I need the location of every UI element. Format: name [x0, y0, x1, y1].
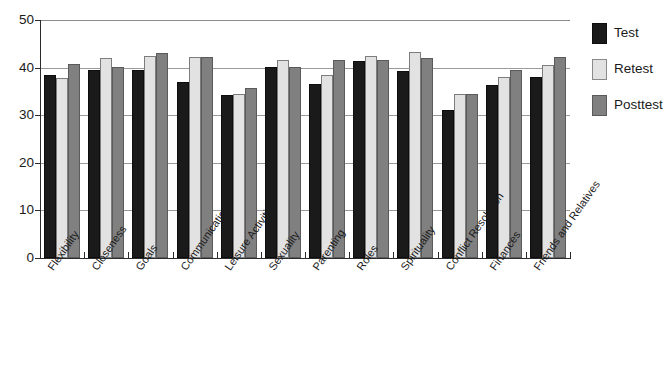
bar-retest[interactable]	[56, 78, 68, 258]
bar-test[interactable]	[397, 71, 409, 258]
bar-retest[interactable]	[365, 56, 377, 258]
y-tick-label: 30	[2, 108, 34, 122]
bar-test[interactable]	[177, 82, 189, 258]
bar-group	[265, 20, 301, 258]
bar-retest[interactable]	[189, 57, 201, 258]
bar-retest[interactable]	[454, 94, 466, 258]
bar-posttest[interactable]	[156, 53, 168, 258]
bar-retest[interactable]	[277, 60, 289, 258]
legend-label-test: Test	[614, 26, 639, 40]
legend-swatch-test-icon	[592, 23, 607, 44]
x-tick-mark	[261, 252, 262, 259]
bar-test[interactable]	[353, 61, 365, 258]
legend-item[interactable]: Retest	[592, 58, 662, 80]
bar-test[interactable]	[265, 67, 277, 258]
x-tick-mark	[173, 252, 174, 259]
x-tick-mark	[84, 252, 85, 259]
y-tick-label: 0	[2, 251, 34, 265]
bar-group	[353, 20, 389, 258]
bar-group	[132, 20, 168, 258]
bar-group	[88, 20, 124, 258]
bar-retest[interactable]	[498, 77, 510, 258]
y-tick-label: 20	[2, 156, 34, 170]
x-tick-mark	[217, 252, 218, 259]
bar-test[interactable]	[442, 110, 454, 258]
x-tick-mark	[349, 252, 350, 259]
y-tick-label: 40	[2, 61, 34, 75]
bar-group	[309, 20, 345, 258]
bar-test[interactable]	[44, 75, 56, 258]
bar-group	[397, 20, 433, 258]
bar-test[interactable]	[88, 70, 100, 258]
y-tick-label: 50	[2, 13, 34, 27]
bar-test[interactable]	[309, 84, 321, 258]
x-tick-mark	[128, 252, 129, 259]
bar-group	[44, 20, 80, 258]
bar-test[interactable]	[132, 70, 144, 258]
bar-retest[interactable]	[321, 75, 333, 258]
x-tick-mark	[482, 252, 483, 259]
chart-legend: Test Retest Posttest	[592, 22, 662, 130]
legend-label-retest: Retest	[614, 62, 653, 76]
bar-posttest[interactable]	[377, 60, 389, 258]
legend-swatch-posttest-icon	[592, 95, 607, 116]
bar-test[interactable]	[530, 77, 542, 258]
x-tick-mark	[526, 252, 527, 259]
legend-swatch-retest-icon	[592, 59, 607, 80]
plot-area	[40, 20, 570, 258]
legend-item[interactable]: Test	[592, 22, 662, 44]
x-tick-mark	[570, 252, 571, 259]
legend-item[interactable]: Posttest	[592, 94, 662, 116]
bar-retest[interactable]	[100, 58, 112, 258]
bar-retest[interactable]	[144, 56, 156, 258]
bar-retest[interactable]	[542, 65, 554, 258]
y-axis-line	[40, 20, 41, 259]
y-tick-label: 10	[2, 203, 34, 217]
legend-label-posttest: Posttest	[614, 98, 663, 112]
x-tick-mark	[305, 252, 306, 259]
bar-test[interactable]	[221, 95, 233, 258]
bar-retest[interactable]	[409, 52, 421, 258]
bar-group	[486, 20, 522, 258]
x-tick-mark	[393, 252, 394, 259]
bar-test[interactable]	[486, 85, 498, 258]
x-tick-mark	[438, 252, 439, 259]
